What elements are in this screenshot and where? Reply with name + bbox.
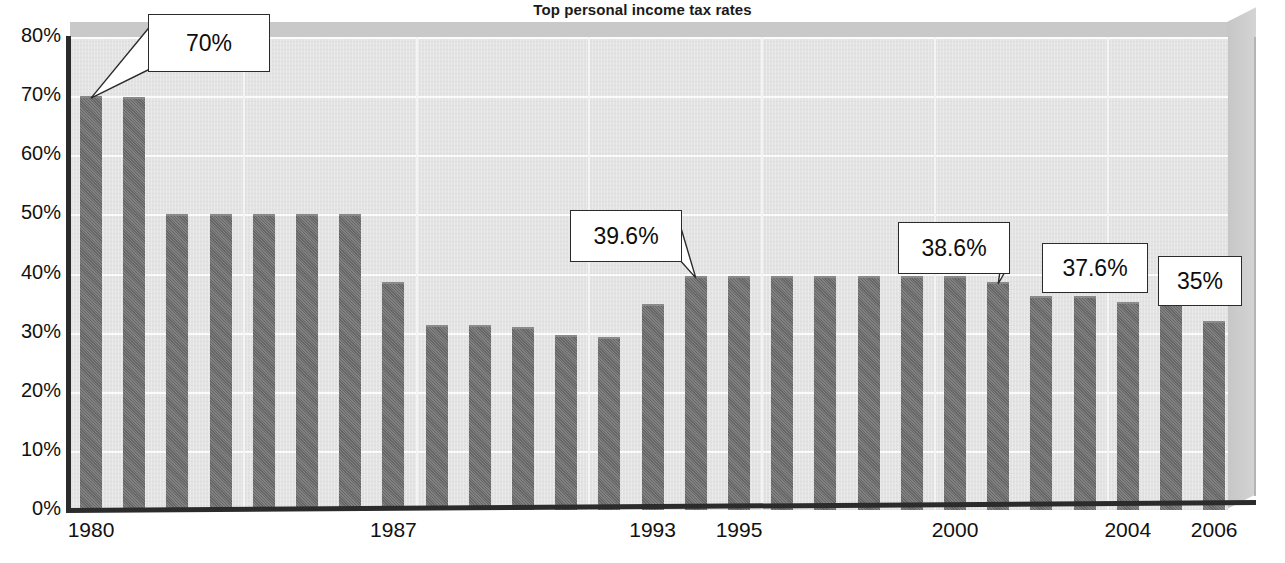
bar-cap bbox=[771, 276, 793, 278]
y-axis-tick-label: 60% bbox=[0, 142, 61, 165]
bar-cap bbox=[728, 276, 750, 278]
annotation-callout: 70% bbox=[148, 14, 270, 72]
bar bbox=[469, 325, 491, 510]
chart-wall-right-edge bbox=[1254, 37, 1256, 496]
chart-root: Top personal income tax rates 0%10%20%30… bbox=[0, 0, 1285, 563]
bar-cap bbox=[512, 327, 534, 329]
bar-cap bbox=[642, 304, 664, 306]
bar bbox=[382, 282, 404, 510]
gridline-vertical bbox=[416, 37, 418, 510]
bar-cap bbox=[858, 276, 880, 278]
x-axis-tick-label: 2004 bbox=[1104, 518, 1151, 542]
bar bbox=[555, 335, 577, 510]
bar bbox=[728, 276, 750, 510]
annotation-callout: 38.6% bbox=[898, 222, 1010, 274]
gridline-vertical bbox=[243, 37, 245, 510]
bar bbox=[253, 214, 275, 510]
y-axis-line bbox=[66, 36, 71, 512]
y-axis-tick-label: 0% bbox=[0, 497, 61, 520]
bar bbox=[1203, 321, 1225, 510]
bar-cap bbox=[987, 282, 1009, 284]
annotation-callout: 35% bbox=[1158, 256, 1242, 306]
bar bbox=[1160, 303, 1182, 510]
gridline-vertical bbox=[588, 37, 590, 510]
bar bbox=[426, 325, 448, 510]
y-axis-tick-label: 50% bbox=[0, 201, 61, 224]
bar bbox=[944, 276, 966, 510]
bar-cap bbox=[253, 214, 275, 216]
y-axis-tick-label: 30% bbox=[0, 320, 61, 343]
y-axis-tick-label: 20% bbox=[0, 379, 61, 402]
y-axis-tick-label: 70% bbox=[0, 83, 61, 106]
x-axis-tick-label: 1987 bbox=[370, 518, 417, 542]
bar-cap bbox=[1074, 296, 1096, 298]
bar-cap bbox=[339, 214, 361, 216]
bar-cap bbox=[814, 276, 836, 278]
bar bbox=[512, 327, 534, 510]
bar bbox=[987, 282, 1009, 510]
bar-cap bbox=[1203, 321, 1225, 323]
bar bbox=[685, 276, 707, 510]
bar bbox=[1030, 296, 1052, 510]
bar bbox=[1074, 296, 1096, 510]
bar-cap bbox=[944, 276, 966, 278]
bar-cap bbox=[1030, 296, 1052, 298]
gridline-vertical bbox=[761, 37, 763, 510]
bar-cap bbox=[210, 214, 232, 216]
bar bbox=[642, 304, 664, 510]
y-axis-tick-label: 80% bbox=[0, 24, 61, 47]
chart-title: Top personal income tax rates bbox=[0, 1, 1285, 18]
x-axis-tick-label: 1995 bbox=[716, 518, 763, 542]
bar-cap bbox=[598, 337, 620, 339]
y-axis-tick-label: 40% bbox=[0, 261, 61, 284]
bar-cap bbox=[382, 282, 404, 284]
bar bbox=[858, 276, 880, 510]
bar bbox=[598, 337, 620, 510]
bar bbox=[166, 214, 188, 510]
bar-cap bbox=[1117, 302, 1139, 304]
annotation-callout: 39.6% bbox=[570, 210, 682, 262]
bar-cap bbox=[166, 214, 188, 216]
bar-cap bbox=[555, 335, 577, 337]
bar-cap bbox=[80, 96, 102, 98]
x-axis-tick-label: 2000 bbox=[932, 518, 979, 542]
bar-cap bbox=[901, 276, 923, 278]
bar bbox=[296, 214, 318, 510]
bar-cap bbox=[685, 276, 707, 278]
bar bbox=[210, 214, 232, 510]
annotation-callout: 37.6% bbox=[1042, 243, 1148, 293]
bar-cap bbox=[123, 97, 145, 99]
bar bbox=[814, 276, 836, 510]
bar-cap bbox=[426, 325, 448, 327]
x-axis-tick-label: 1993 bbox=[629, 518, 676, 542]
x-axis-tick-label: 2006 bbox=[1191, 518, 1238, 542]
bar bbox=[901, 276, 923, 510]
bar-cap bbox=[296, 214, 318, 216]
bar-cap bbox=[469, 325, 491, 327]
y-axis-tick-label: 10% bbox=[0, 438, 61, 461]
bar bbox=[771, 276, 793, 510]
bar bbox=[80, 96, 102, 510]
bar bbox=[339, 214, 361, 510]
x-axis-tick-label: 1980 bbox=[68, 518, 115, 542]
bar bbox=[123, 97, 145, 510]
bar bbox=[1117, 302, 1139, 510]
